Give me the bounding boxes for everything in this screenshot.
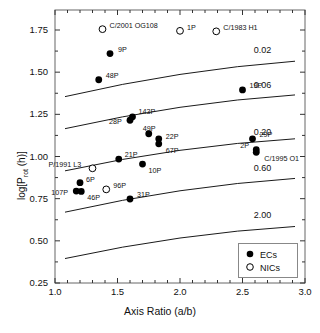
y-tick-label: 1.25 [0,109,48,119]
data-point-label: 49P [143,125,156,132]
y-tick-label: 1.50 [0,67,48,77]
data-point-label: 6P [86,176,95,183]
data-point-label: 22P [166,133,179,140]
legend-open-circle-icon [247,264,254,271]
data-point-label: 9P [118,46,127,53]
data-point-label: C/1983 H1 [223,24,257,31]
y-axis-label-subscript: rot [22,169,29,177]
curve-label: 0.20 [254,128,272,137]
y-tick-label: 1.75 [0,25,48,35]
data-point-label: 107P [51,189,68,196]
legend-label-nics: NICs [260,264,280,273]
curve-label: 2.00 [254,211,272,220]
data-point-label: 67P [166,147,179,154]
legend: ECs NICs [238,243,298,278]
data-point-label: 2P [240,142,249,149]
data-point-label: P/1991 L3 [49,161,82,168]
x-tick-label: 1.0 [35,287,75,297]
data-point-label: 1P [187,24,196,31]
curve-label: 0.02 [254,46,272,55]
legend-filled-circle-icon [247,251,254,258]
x-tick-label: 2.0 [160,287,200,297]
data-point-label: 31P [137,191,150,198]
data-point-label: 48P [106,72,119,79]
data-point-label: C/2001 OG108 [110,22,158,29]
data-point-label: 46P [87,194,100,201]
curve-label: 0.06 [254,81,272,90]
data-points [73,26,260,203]
data-point-label: 10P [149,167,162,174]
y-tick-label: 0.75 [0,194,48,204]
x-tick-label: 1.5 [98,287,138,297]
model-curves [65,61,295,258]
y-tick-label: 0.50 [0,236,48,246]
chart-figure: log[Prot (h)] Axis Ratio (a/b) 0.250.500… [0,0,320,333]
data-point-label: C/1995 O1 [264,155,299,162]
x-axis-label: Axis Ratio (a/b) [0,305,320,317]
legend-label-ecs: ECs [260,251,277,260]
x-tick-label: 2.5 [223,287,263,297]
curve-label: 0.60 [254,164,272,173]
data-point-label: 28P [109,118,122,125]
data-point-label: 96P [113,182,126,189]
data-point-label: 21P [125,151,138,158]
data-point-label: 143P [139,108,156,115]
y-tick-label: 1.00 [0,152,48,162]
x-tick-label: 3.0 [285,287,320,297]
